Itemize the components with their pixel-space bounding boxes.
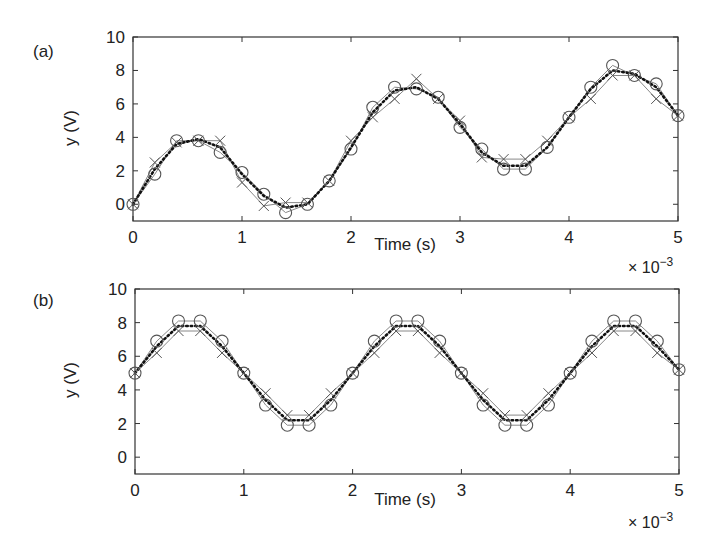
x-tick-label: 1 xyxy=(237,228,246,247)
y-tick-label: 0 xyxy=(116,195,125,214)
series-dotted-line xyxy=(133,71,678,208)
cross-marker xyxy=(348,368,358,378)
y-tick-label: 0 xyxy=(118,448,127,467)
x-tick-label: 1 xyxy=(239,481,248,500)
series-circle-line xyxy=(135,321,679,425)
cross-marker xyxy=(150,157,160,167)
panel-b: (b) y (V) Time (s) × 10−3 0123450246810 xyxy=(33,280,685,531)
cross-marker xyxy=(565,368,575,378)
x-tick-label: 5 xyxy=(673,228,682,247)
cross-marker xyxy=(152,348,162,358)
y-tick-label: 2 xyxy=(116,162,125,181)
y-tick-label: 8 xyxy=(118,314,127,333)
cross-marker xyxy=(435,348,445,358)
x-tick-label: 2 xyxy=(348,481,357,500)
axes-b: 0123450246810 xyxy=(108,280,684,500)
cross-marker xyxy=(239,368,249,378)
cross-marker xyxy=(651,94,661,104)
x-tick-label: 5 xyxy=(674,481,683,500)
cross-marker xyxy=(456,368,466,378)
panel-a: (a) y (V) Time (s) × 10−3 0123450246810 xyxy=(33,28,684,276)
axes-frame xyxy=(133,37,678,221)
x-tick-label: 0 xyxy=(130,481,139,500)
y-tick-label: 2 xyxy=(118,415,127,434)
cross-marker xyxy=(326,388,336,398)
panel-label: (b) xyxy=(33,291,54,310)
cross-marker xyxy=(259,201,269,211)
figure: (a) y (V) Time (s) × 10−3 0123450246810 … xyxy=(0,0,716,553)
x-tick-label: 2 xyxy=(346,228,355,247)
x-axis-label: Time (s) xyxy=(374,235,436,254)
cross-marker xyxy=(478,388,488,398)
axes-frame xyxy=(135,289,679,474)
plot-area-a xyxy=(127,59,684,218)
cross-marker xyxy=(217,348,227,358)
cross-marker xyxy=(543,388,553,398)
cross-marker xyxy=(433,94,443,104)
x-axis-label: Time (s) xyxy=(374,490,436,509)
cross-marker xyxy=(261,388,271,398)
x-tick-label: 0 xyxy=(128,228,137,247)
x-multiplier: × 10−3 xyxy=(628,510,674,531)
y-tick-label: 4 xyxy=(116,128,125,147)
y-tick-label: 6 xyxy=(116,95,125,114)
plot-area-b xyxy=(129,315,685,431)
cross-marker xyxy=(564,112,574,122)
cross-marker xyxy=(369,348,379,358)
panel-label: (a) xyxy=(33,42,54,61)
x-tick-label: 3 xyxy=(455,228,464,247)
cross-marker xyxy=(587,348,597,358)
x-multiplier: × 10−3 xyxy=(628,255,674,276)
cross-marker xyxy=(390,94,400,104)
axes-a: 0123450246810 xyxy=(106,28,683,247)
y-tick-label: 8 xyxy=(116,61,125,80)
series-cross-line xyxy=(133,76,678,206)
y-axis-label: y (V) xyxy=(61,110,80,146)
y-tick-label: 10 xyxy=(106,28,125,47)
y-axis-label: y (V) xyxy=(61,362,80,398)
cross-marker xyxy=(586,94,596,104)
x-tick-label: 4 xyxy=(565,481,574,500)
y-tick-label: 10 xyxy=(108,280,127,299)
cross-marker xyxy=(652,348,662,358)
cross-marker xyxy=(324,176,334,186)
y-tick-label: 6 xyxy=(118,347,127,366)
x-tick-label: 4 xyxy=(564,228,573,247)
x-tick-label: 3 xyxy=(457,481,466,500)
y-tick-label: 4 xyxy=(118,381,127,400)
